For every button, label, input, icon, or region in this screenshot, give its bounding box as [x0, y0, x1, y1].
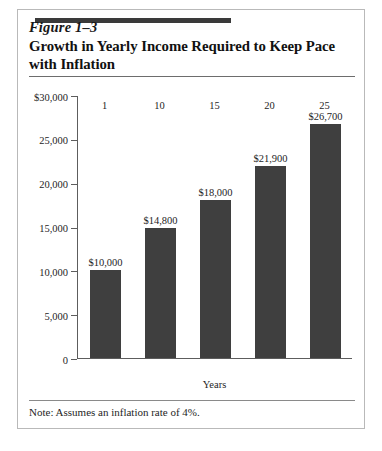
figure-card: Figure 1–3 Growth in Yearly Income Requi… — [17, 9, 365, 429]
y-axis-tick-mark — [71, 140, 77, 141]
bar-value-label: $21,900 — [253, 153, 287, 164]
bar-rect[interactable] — [255, 166, 285, 358]
y-axis-tick-mark — [71, 271, 77, 272]
y-axis-tick-label: 25,000 — [39, 135, 68, 146]
bar-item[interactable]: $10,000 — [90, 95, 120, 358]
y-axis-tick-mark — [71, 315, 77, 316]
y-axis-tick-mark — [71, 228, 77, 229]
y-axis-tick-mark — [71, 359, 77, 360]
bar-value-label: $14,800 — [143, 215, 177, 226]
bar-item[interactable]: $18,000 — [200, 95, 230, 358]
bar-value-label: $26,700 — [308, 111, 342, 122]
bar-rect[interactable] — [310, 124, 340, 358]
bar-series: $10,000$14,800$18,000$21,900$26,700 — [78, 96, 352, 358]
y-axis-tick-mark — [71, 184, 77, 185]
x-axis-tick-label: 1 — [102, 100, 107, 111]
x-axis-tick-label: 25 — [319, 100, 330, 111]
chart-plot-area: 05,00010,00015,00020,00025,000$30,000 $1… — [77, 96, 352, 359]
y-axis-tick-label: 5,000 — [44, 310, 68, 321]
x-axis-tick-label: 20 — [264, 100, 275, 111]
y-axis-tick-label: 15,000 — [39, 223, 68, 234]
page-title: Growth in Yearly Income Required to Keep… — [29, 37, 355, 73]
y-axis-tick: 0 — [77, 359, 352, 360]
x-axis-tick-label: 10 — [154, 100, 165, 111]
y-axis-tick-label: 20,000 — [39, 179, 68, 190]
figure-number: Figure 1–3 — [29, 18, 355, 36]
bar-item[interactable]: $26,700 — [310, 95, 340, 358]
bar-value-label: $18,000 — [198, 187, 232, 198]
bar-item[interactable]: $21,900 — [255, 95, 285, 358]
header-divider — [29, 76, 355, 77]
figure-note: Note: Assumes an inflation rate of 4%. — [29, 406, 200, 418]
y-axis-tick-label: 10,000 — [39, 266, 68, 277]
bar-value-label: $10,000 — [88, 257, 122, 268]
note-divider — [29, 400, 355, 401]
x-axis-tick-label: 15 — [209, 100, 220, 111]
bar-rect[interactable] — [200, 200, 230, 358]
bar-rect[interactable] — [145, 228, 175, 358]
figure-header: Figure 1–3 Growth in Yearly Income Requi… — [29, 18, 355, 74]
y-axis-tick-label: 0 — [63, 354, 68, 365]
y-axis-tick-mark — [71, 96, 77, 97]
bar-rect[interactable] — [90, 270, 120, 358]
x-axis-title: Years — [77, 379, 352, 390]
y-axis-tick-label: $30,000 — [34, 91, 68, 102]
bar-item[interactable]: $14,800 — [145, 95, 175, 358]
